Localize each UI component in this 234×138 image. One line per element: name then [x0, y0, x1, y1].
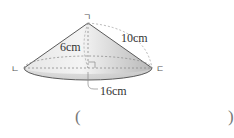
vertex-label-top: ㄱ — [83, 12, 91, 22]
answer-close-paren: ) — [228, 107, 234, 127]
height-label: 6cm — [60, 40, 81, 54]
vertex-label-right: ㄷ — [156, 64, 164, 74]
cone-diagram: ㄱ ㄴ ㄷ 6cm 10cm 16cm — [0, 0, 234, 138]
answer-open-paren: ( — [75, 107, 81, 127]
diameter-label: 16cm — [100, 84, 127, 98]
vertex-label-left: ㄴ — [11, 64, 19, 74]
slant-label: 10cm — [121, 31, 148, 45]
